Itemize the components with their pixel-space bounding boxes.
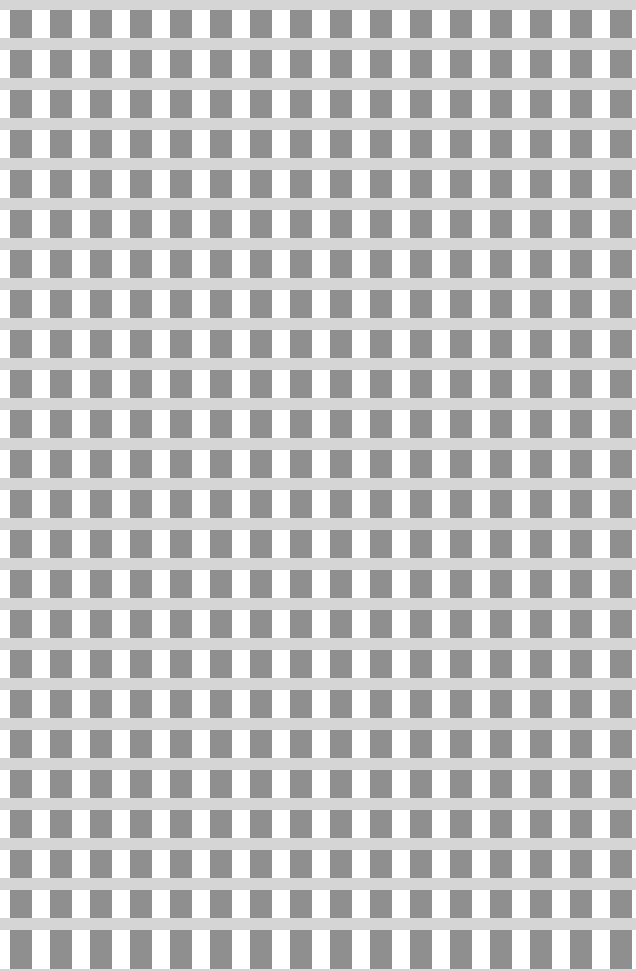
horizontal-band-layer xyxy=(0,0,636,971)
pattern-canvas: Repeating gingham / checkered grid of me… xyxy=(0,0,636,971)
